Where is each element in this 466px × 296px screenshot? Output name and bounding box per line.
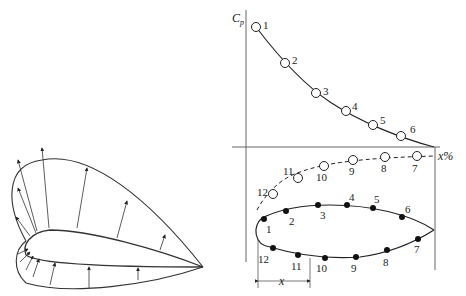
left-panel-airfoil-pressure	[12, 148, 203, 289]
airfoil-pressure-figure: Cp x% 1 2 3 4 5 6	[0, 0, 466, 296]
lower-pressure-envelope	[16, 241, 203, 289]
svg-text:2: 2	[292, 54, 298, 66]
svg-text:8: 8	[383, 256, 389, 268]
svg-text:4: 4	[349, 191, 355, 203]
right-panel-cp-plot: Cp x% 1 2 3 4 5 6	[232, 10, 453, 288]
svg-text:9: 9	[349, 165, 355, 177]
svg-text:5: 5	[380, 114, 386, 126]
cp-upper-labels: 1 2 3 4 5 6	[263, 19, 416, 135]
dim-label: x	[278, 274, 285, 288]
svg-text:1: 1	[263, 19, 269, 31]
svg-text:12: 12	[258, 253, 269, 265]
cp-axis-label: Cp	[232, 11, 244, 27]
svg-text:2: 2	[289, 215, 295, 227]
svg-text:6: 6	[410, 123, 416, 135]
svg-text:10: 10	[316, 262, 328, 274]
svg-text:3: 3	[323, 85, 329, 97]
svg-text:12: 12	[257, 186, 268, 198]
svg-text:11: 11	[283, 165, 294, 177]
svg-text:3: 3	[320, 209, 326, 221]
svg-text:4: 4	[352, 100, 358, 112]
airfoil-lower-labels: 7 8 9 10 11 12	[258, 243, 420, 274]
svg-text:1: 1	[266, 223, 272, 235]
svg-text:7: 7	[412, 162, 418, 174]
svg-text:6: 6	[405, 203, 411, 215]
svg-text:5: 5	[374, 193, 380, 205]
lower-arrows	[18, 249, 138, 288]
cp-lower-labels: 7 8 9 10 11 12	[257, 162, 418, 198]
svg-text:9: 9	[351, 262, 357, 274]
x-axis-label: x%	[437, 149, 453, 163]
svg-text:10: 10	[316, 171, 328, 183]
cp-upper-curve	[256, 27, 434, 147]
svg-text:8: 8	[381, 162, 387, 174]
svg-text:7: 7	[414, 243, 420, 255]
svg-text:11: 11	[291, 260, 302, 272]
